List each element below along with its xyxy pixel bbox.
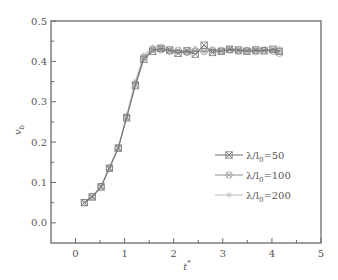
marker-star xyxy=(226,192,232,198)
legend-label: λ/l0=200 xyxy=(246,190,291,204)
series-star xyxy=(81,43,282,206)
x-tick-label: 0 xyxy=(72,248,78,259)
series-x-square xyxy=(81,42,282,206)
marker-x xyxy=(192,51,198,57)
legend-label: λ/l0=100 xyxy=(246,170,291,184)
x-tick-label: 4 xyxy=(269,248,275,259)
y-tick-label: 0.4 xyxy=(31,56,47,67)
y-axis-label: vb xyxy=(12,124,26,135)
legend-label: λ/l0=50 xyxy=(246,150,284,164)
legend-item: λ/l0=200 xyxy=(215,190,291,204)
y-tick-label: 0.5 xyxy=(31,16,47,27)
legend-item: λ/l0=100 xyxy=(215,170,291,184)
y-tick-label: 0.1 xyxy=(31,177,47,188)
x-tick-label: 2 xyxy=(171,248,177,259)
legend: λ/l0=50λ/l0=100λ/l0=200 xyxy=(215,150,291,204)
legend-item: λ/l0=50 xyxy=(215,150,284,164)
y-tick-label: 0.2 xyxy=(31,137,47,148)
x-tick-label: 3 xyxy=(220,248,226,259)
x-tick-label: 5 xyxy=(318,248,324,259)
line-chart: 0123450.00.10.20.30.40.5t*vb λ/l0=50λ/l0… xyxy=(0,0,338,280)
marker-x xyxy=(201,42,207,48)
series-circle-x xyxy=(81,46,282,206)
y-tick-label: 0.0 xyxy=(31,217,47,228)
x-tick-label: 1 xyxy=(121,248,127,259)
x-axis-label: t* xyxy=(183,259,191,272)
series-layer xyxy=(81,42,282,206)
y-tick-label: 0.3 xyxy=(31,96,47,107)
